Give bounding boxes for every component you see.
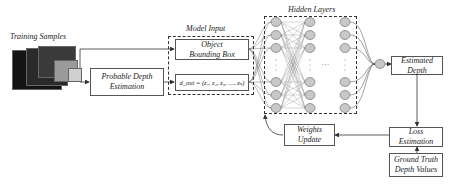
probable-depth-estimation-box: Probable Depth Estimation [90, 68, 164, 96]
ground-truth-depth-box: Ground Truth Depth Values [389, 153, 443, 177]
training-samples-label: Training Samples [10, 32, 66, 41]
hidden-layers-label: Hidden Layers [288, 5, 335, 14]
training-samples-image [12, 46, 82, 91]
object-bounding-box: Object Bounding Box [175, 39, 249, 60]
model-input-label: Model Input [186, 24, 225, 33]
d-out-formula-box: d_out = (z₁, z₂, z₃, …, zₙ) [175, 74, 249, 91]
loss-estimation-box: Loss Estimation [389, 127, 443, 147]
estimated-depth-box: Estimated Depth [391, 56, 443, 75]
hidden-layers-group [264, 16, 357, 114]
layer-ellipsis: … [322, 58, 329, 67]
weights-update-box: Weights Update [284, 124, 335, 146]
